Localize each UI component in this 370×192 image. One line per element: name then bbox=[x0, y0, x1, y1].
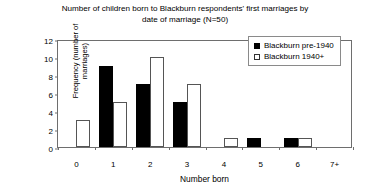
bar-blackburn-pre-1940-2 bbox=[136, 84, 150, 147]
x-tick-mark bbox=[316, 147, 317, 150]
bar-blackburn-1940-3 bbox=[187, 84, 201, 147]
x-tick-label: 6 bbox=[295, 160, 299, 169]
bar-blackburn-1940-2 bbox=[150, 57, 164, 147]
x-tick-mark bbox=[353, 147, 354, 150]
x-tick-label: 0 bbox=[74, 160, 78, 169]
y-tick-mark bbox=[55, 131, 58, 132]
x-tick-mark bbox=[242, 147, 243, 150]
y-tick-mark bbox=[55, 95, 58, 96]
legend-item-1940-plus: Blackburn 1940+ bbox=[254, 51, 334, 62]
y-tick-mark bbox=[55, 41, 58, 42]
x-tick-label: 1 bbox=[111, 160, 115, 169]
x-tick-mark bbox=[206, 147, 207, 150]
bar-blackburn-pre-1940-5 bbox=[247, 138, 261, 147]
legend-item-pre-1940: Blackburn pre-1940 bbox=[254, 40, 334, 51]
y-axis-title: Frequency (number of marriages) bbox=[72, 9, 88, 113]
plot-area: Frequency (number of marriages) 02468101… bbox=[57, 40, 352, 148]
bar-blackburn-1940-4 bbox=[224, 138, 238, 147]
y-axis-title-line-2: marriages) bbox=[80, 43, 89, 79]
y-tick-mark bbox=[55, 113, 58, 114]
bar-blackburn-pre-1940-3 bbox=[173, 102, 187, 147]
x-tick-mark bbox=[132, 147, 133, 150]
chart-title-line-2: date of marriage (N=50) bbox=[18, 14, 352, 25]
chart-figure: Number of children born to Blackburn res… bbox=[0, 0, 370, 192]
x-tick-label: 5 bbox=[259, 160, 263, 169]
x-tick-label: 2 bbox=[148, 160, 152, 169]
legend-label-1940-plus: Blackburn 1940+ bbox=[264, 52, 324, 61]
legend-swatch-outlined-icon bbox=[254, 54, 260, 60]
chart-title-line-1: Number of children born to Blackburn res… bbox=[18, 3, 352, 14]
x-axis-title: Number born bbox=[57, 174, 352, 184]
x-tick-mark bbox=[58, 147, 59, 150]
x-tick-label: 3 bbox=[185, 160, 189, 169]
bar-blackburn-1940-1 bbox=[113, 102, 127, 147]
chart-legend: Blackburn pre-1940 Blackburn 1940+ bbox=[248, 36, 341, 66]
x-tick-mark bbox=[95, 147, 96, 150]
bar-blackburn-1940-0 bbox=[76, 120, 90, 147]
bar-blackburn-1940-6 bbox=[298, 138, 312, 147]
y-tick-mark bbox=[55, 59, 58, 60]
y-tick-mark bbox=[55, 77, 58, 78]
bar-blackburn-pre-1940-6 bbox=[284, 138, 298, 147]
bar-blackburn-pre-1940-1 bbox=[99, 66, 113, 147]
legend-swatch-filled-icon bbox=[254, 43, 260, 49]
x-tick-mark bbox=[169, 147, 170, 150]
x-tick-mark bbox=[279, 147, 280, 150]
chart-title: Number of children born to Blackburn res… bbox=[18, 3, 352, 25]
x-tick-label: 7+ bbox=[330, 160, 339, 169]
legend-label-pre-1940: Blackburn pre-1940 bbox=[264, 41, 334, 50]
x-tick-label: 4 bbox=[222, 160, 226, 169]
